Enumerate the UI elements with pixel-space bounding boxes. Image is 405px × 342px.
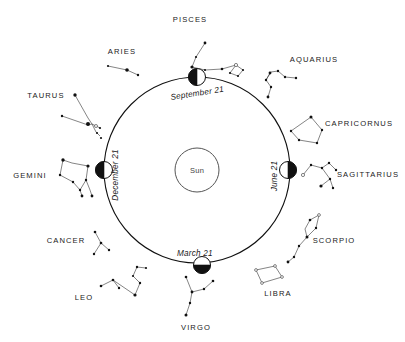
earth-marker-march	[194, 257, 211, 274]
earth-shadow-half	[189, 69, 198, 86]
zodiac-label-capricornus: CAPRICORNUS	[325, 119, 393, 128]
zodiac-label-leo: LEO	[75, 293, 94, 302]
earth-marker-september	[189, 69, 206, 86]
season-label-march: March 21	[177, 249, 213, 258]
earth-shadow-half	[288, 162, 297, 179]
constellation-taurus	[61, 93, 102, 139]
season-label-june: June 21	[270, 161, 279, 193]
zodiac-label-cancer: CANCER	[47, 236, 86, 245]
zodiac-label-pisces: PISCES	[173, 15, 207, 24]
orbit-diagram: Sun September 21 December 21 March 21 Ju…	[0, 0, 405, 342]
sun-group: Sun	[175, 148, 219, 192]
constellation-aries	[107, 65, 139, 76]
zodiac-label-sagittarius: SAGITTARIUS	[337, 170, 399, 179]
zodiac-label-virgo: VIRGO	[181, 323, 211, 332]
constellation-gemini	[59, 158, 94, 197]
constellation-leo	[100, 266, 147, 297]
earth-shadow-half	[96, 162, 105, 179]
zodiac-label-libra: LIBRA	[264, 289, 291, 298]
constellation-libra	[255, 265, 284, 285]
sun-label: Sun	[190, 166, 204, 175]
earth-marker-june	[280, 162, 297, 179]
earth-shadow-half	[194, 265, 211, 273]
zodiac-label-gemini: GEMINI	[13, 171, 47, 180]
season-label-september: September 21	[170, 85, 225, 102]
zodiac-label-aries: ARIES	[108, 47, 136, 56]
constellation-capricornus	[290, 116, 323, 145]
zodiac-label-taurus: TAURUS	[27, 91, 64, 100]
diagram-canvas: Sun September 21 December 21 March 21 Ju…	[0, 0, 405, 342]
constellation-cancer	[93, 231, 110, 256]
zodiac-label-scorpio: SCORPIO	[313, 236, 356, 245]
zodiac-label-aquarius: AQUARIUS	[290, 55, 338, 64]
earth-marker-december	[96, 162, 113, 179]
season-label-december: December 21	[111, 149, 120, 200]
constellation-sagittarius	[301, 162, 337, 189]
constellation-aquarius	[265, 70, 297, 99]
constellation-virgo	[185, 276, 215, 317]
